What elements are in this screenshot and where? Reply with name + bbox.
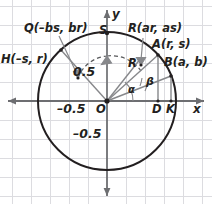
point-B <box>169 74 173 78</box>
arrow-to-S <box>102 56 112 65</box>
y-axis-arrow-down <box>104 188 111 196</box>
label-point-R-coords: R(ar, as) <box>128 23 182 35</box>
label-point-R: R <box>128 58 137 70</box>
label-y-axis: y <box>112 8 120 20</box>
label-point-B: B(a, b) <box>164 57 208 69</box>
label-point-D: D <box>152 104 162 116</box>
label-point-H: H(–s, r) <box>1 54 48 66</box>
label-point-S: S <box>99 25 107 37</box>
label-point-A: A(r, s) <box>152 39 191 51</box>
label-origin: O <box>96 104 106 116</box>
point-A <box>156 53 160 57</box>
label-x-axis: x <box>193 103 201 115</box>
label-tick-y-negative: –0.5 <box>73 128 101 141</box>
label-point-K: K <box>166 104 175 116</box>
label-angle-beta: β <box>146 76 154 87</box>
point-R <box>139 63 142 66</box>
label-angle-alpha: α <box>128 85 135 95</box>
point-H <box>59 48 63 52</box>
y-axis-arrow-up <box>104 10 111 18</box>
label-point-Q: Q(–bs, br) <box>24 23 87 35</box>
unit-circle-figure: Q(–bs, br) H(–s, r) S R(ar, as) R A(r, s… <box>0 0 212 204</box>
label-tick-x-negative: –0.5 <box>57 103 85 116</box>
label-tick-y-positive: 0.5 <box>73 66 95 79</box>
